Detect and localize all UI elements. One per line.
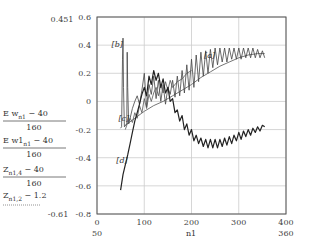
- y-tick-label: -0.6: [76, 182, 91, 191]
- line-chart: -0.8-0.6-0.4-0.200.20.40.6 0100200300400…: [0, 0, 315, 242]
- annotation-label: [c]: [118, 114, 130, 123]
- y-tick-label: 0.6: [78, 13, 91, 22]
- series-line-1: [125, 54, 264, 126]
- annotation-label: [d]: [116, 156, 128, 165]
- y-tick-label: 0: [86, 97, 91, 106]
- legend-numerator: Zn1,2 − 1.2: [3, 191, 46, 202]
- annotation-label: [a]: [204, 51, 216, 60]
- legend-denominator: 160: [26, 123, 41, 132]
- y-range-min-label: -0.61: [48, 210, 69, 219]
- legend-denominator: 160: [26, 150, 41, 159]
- legend-numerator: E wn1 − 40: [3, 109, 48, 120]
- y-tick-label: -0.4: [76, 154, 91, 163]
- y-tick-label: 0.2: [78, 69, 91, 78]
- y-tick-label: 0.4: [78, 41, 91, 50]
- legend-denominator: 160: [26, 179, 41, 188]
- series-group: [121, 38, 265, 190]
- legend-numerator: Zn1,4 − 40: [3, 165, 44, 176]
- x-tick-label: 0: [94, 218, 99, 227]
- legend-numerator: E w1n1 − 40: [3, 136, 53, 147]
- x-range-max-label: 360: [278, 229, 293, 238]
- x-tick-label: 400: [278, 218, 293, 227]
- annotation-label: [b]: [112, 40, 124, 49]
- x-tick-label: 100: [137, 218, 152, 227]
- x-tick-label: 300: [231, 218, 246, 227]
- y-tick-labels: -0.8-0.6-0.4-0.200.20.40.6: [76, 13, 91, 219]
- x-range-min-label: 50: [92, 229, 102, 238]
- y-range-max-label: 0.451: [51, 15, 74, 24]
- x-tick-labels: 0100200300400: [94, 218, 293, 227]
- y-tick-label: -0.2: [76, 126, 91, 135]
- y-tick-label: -0.8: [76, 210, 91, 219]
- legend: E wn1 − 40160E w1n1 − 40160Zn1,4 − 40160…: [3, 109, 66, 205]
- x-tick-label: 200: [184, 218, 199, 227]
- x-axis-label: n1: [186, 229, 196, 238]
